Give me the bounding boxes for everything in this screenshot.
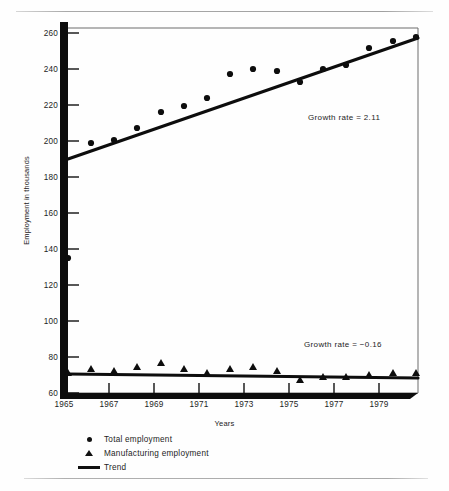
line-marker-icon xyxy=(74,466,104,469)
series-manufacturing-employment-points xyxy=(64,359,420,383)
page-background: Employment in thousands Years 260 240 22… xyxy=(0,0,449,491)
legend-item-manufacturing-employment: Manufacturing employment xyxy=(74,446,209,460)
employment-trend-figure: Employment in thousands Years 260 240 22… xyxy=(0,0,449,491)
series-total-employment-points xyxy=(65,34,419,261)
chart-plot-area xyxy=(0,0,449,491)
circle-marker-icon xyxy=(74,437,104,442)
legend-label-manufacturing-employment: Manufacturing employment xyxy=(104,449,209,458)
legend-item-total-employment: Total employment xyxy=(74,432,209,446)
legend-label-trend: Trend xyxy=(104,463,126,472)
triangle-marker-icon xyxy=(74,450,104,456)
chart-legend: Total employment Manufacturing employmen… xyxy=(74,432,209,474)
legend-label-total-employment: Total employment xyxy=(104,435,172,444)
legend-item-trend: Trend xyxy=(74,460,209,474)
